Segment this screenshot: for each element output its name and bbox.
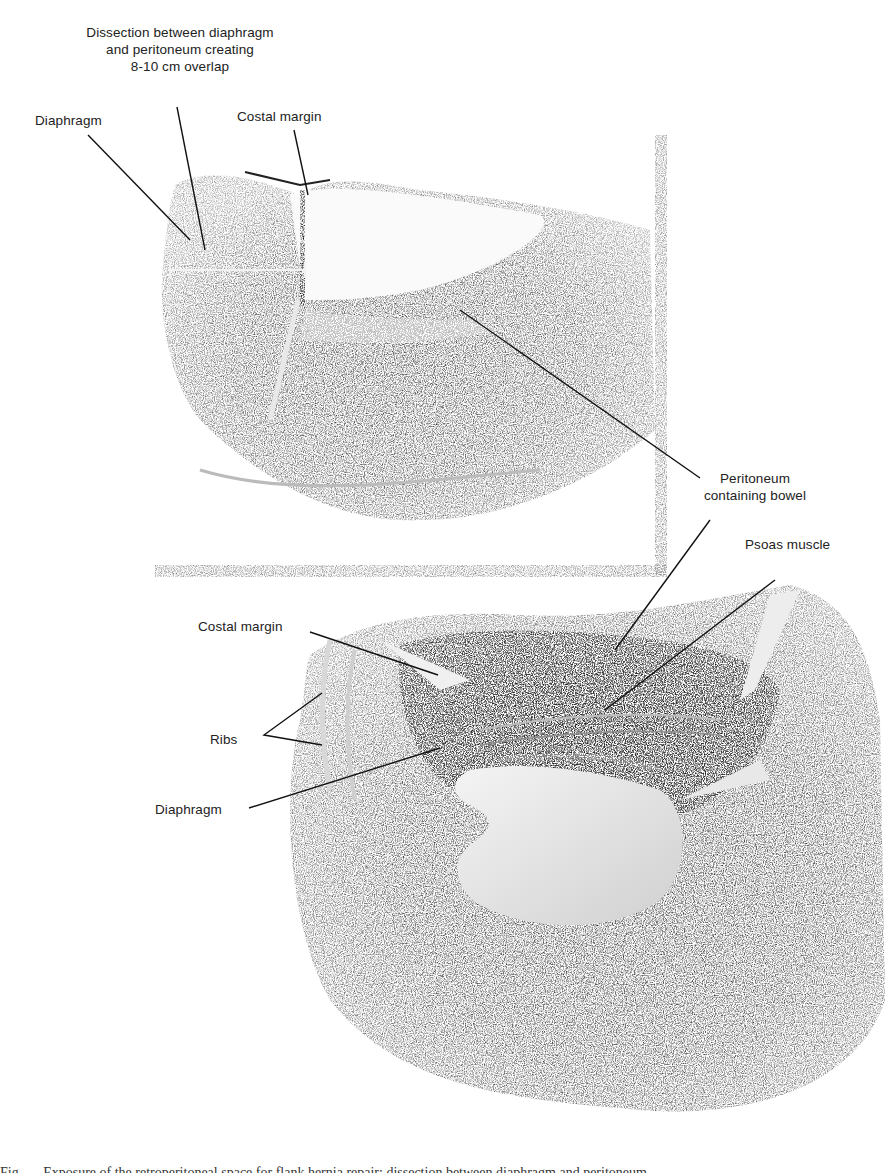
figure-caption: Fig. — Exposure of the retroperitoneal s… bbox=[0, 1160, 889, 1173]
label-bottom-costal-margin: Costal margin bbox=[198, 618, 283, 635]
surgeon-hand bbox=[455, 766, 683, 925]
surgical-illustration bbox=[0, 0, 889, 1173]
label-ribs: Ribs bbox=[210, 731, 237, 748]
label-line: Dissection between diaphragm bbox=[55, 24, 305, 41]
label-line: 8-10 cm overlap bbox=[55, 58, 305, 75]
label-peritoneum-bowel: Peritoneum containing bowel bbox=[690, 470, 820, 504]
label-line: Peritoneum bbox=[690, 470, 820, 487]
label-top-costal-margin: Costal margin bbox=[237, 108, 322, 125]
top-panel bbox=[88, 107, 700, 577]
label-dissection-overlap: Dissection between diaphragm and periton… bbox=[55, 24, 305, 75]
label-top-diaphragm: Diaphragm bbox=[35, 112, 102, 129]
label-line: containing bowel bbox=[690, 487, 820, 504]
panel-frame-bottom bbox=[155, 565, 667, 577]
costal-margin-edge bbox=[300, 190, 305, 305]
label-bottom-diaphragm: Diaphragm bbox=[155, 801, 222, 818]
bottom-panel bbox=[249, 520, 885, 1112]
label-psoas-muscle: Psoas muscle bbox=[745, 536, 830, 553]
label-line: and peritoneum creating bbox=[55, 41, 305, 58]
panel-frame-right bbox=[655, 135, 667, 575]
